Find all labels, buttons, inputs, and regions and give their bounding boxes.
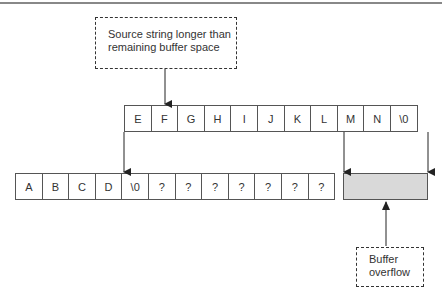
arrows <box>0 0 442 301</box>
buffer-overflow-diagram: Source string longer than remaining buff… <box>0 0 442 301</box>
